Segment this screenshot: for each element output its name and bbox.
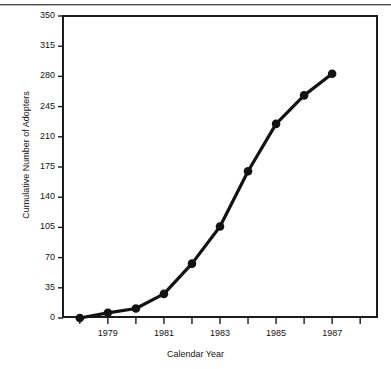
x-axis-tick-label: 1979: [83, 328, 133, 338]
y-axis-tick-label: 350: [10, 10, 55, 20]
data-point-marker: [328, 70, 337, 79]
data-point-marker: [160, 290, 169, 299]
x-axis-tick-label: 1985: [251, 328, 301, 338]
y-axis-tick-label: 70: [10, 252, 55, 262]
x-axis-ticks: [80, 318, 360, 324]
y-axis-tick-label: 245: [10, 101, 55, 111]
y-axis-tick-label: 0: [10, 312, 55, 322]
data-point-marker: [188, 259, 197, 268]
y-axis-ticks: [58, 16, 63, 318]
data-point-marker: [76, 314, 85, 323]
y-axis-tick-label: 140: [10, 191, 55, 201]
y-axis-tick-label: 210: [10, 131, 55, 141]
y-axis-tick-label: 105: [10, 221, 55, 231]
data-point-marker: [300, 91, 309, 100]
chart-page: 03570105140175210245280315350 1979198119…: [0, 0, 391, 369]
series-markers-cumulative-adopters: [76, 70, 337, 323]
x-axis-tick-label: 1981: [139, 328, 189, 338]
y-axis-tick-label: 175: [10, 161, 55, 171]
chart-canvas: [0, 0, 391, 369]
y-axis-title: Cumulative Number of Adopters: [21, 65, 31, 245]
data-point-marker: [132, 304, 141, 313]
series-line-cumulative-adopters: [80, 74, 332, 318]
y-axis-tick-label: 35: [10, 282, 55, 292]
x-axis-title: Calendar Year: [0, 349, 391, 359]
data-point-marker: [244, 167, 253, 176]
data-point-marker: [272, 120, 281, 129]
data-point-marker: [104, 309, 113, 318]
y-axis-tick-label: 280: [10, 70, 55, 80]
x-axis-tick-label: 1987: [307, 328, 357, 338]
x-axis-tick-label: 1983: [195, 328, 245, 338]
data-point-marker: [216, 222, 225, 231]
y-axis-tick-label: 315: [10, 40, 55, 50]
